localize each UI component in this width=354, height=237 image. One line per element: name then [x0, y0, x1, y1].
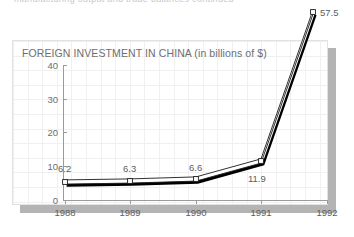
data-label-1989: 6.3 — [123, 163, 136, 174]
series-line-edges — [65, 10, 313, 184]
data-label-1991: 11.9 — [248, 173, 266, 184]
data-label-1988: 6.2 — [58, 163, 71, 174]
series-line-shadow — [67, 15, 315, 185]
series-line — [0, 0, 354, 237]
series-line-fill — [65, 12, 313, 182]
data-label-1992: 57.5 — [320, 7, 339, 18]
chart-figure: manufacturing output and trade balances … — [0, 0, 354, 237]
series-markers — [63, 10, 316, 185]
series-line-outline — [65, 12, 313, 182]
data-label-1990: 6.6 — [189, 162, 202, 173]
